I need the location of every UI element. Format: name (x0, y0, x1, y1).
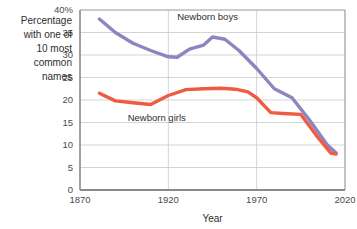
y-axis-title-line: common (34, 57, 72, 68)
series-label: Newborn girls (128, 112, 186, 123)
x-tick-label: 1870 (69, 194, 90, 205)
y-axis-title-line: 10 most (36, 43, 72, 54)
x-axis-title: Year (202, 213, 223, 224)
y-axis-title-line: with one of (23, 29, 73, 40)
y-axis-title: Percentagewith one of10 mostcommonnames (21, 15, 73, 82)
x-tick-label: 1920 (158, 194, 179, 205)
x-axis-title-text: Year (202, 213, 223, 224)
series-line (99, 19, 336, 153)
y-tick-label: 5 (68, 162, 73, 173)
chart-container: 0510152025303540% 1870192019702020 Newbo… (0, 0, 357, 229)
x-axis-tick-labels: 1870192019702020 (69, 194, 355, 205)
y-tick-label: 20 (62, 94, 73, 105)
y-axis-title-line: Percentage (21, 15, 73, 26)
x-tick-label: 1970 (246, 194, 267, 205)
y-tick-label: 10 (62, 139, 73, 150)
series-inline-labels: Newborn boysNewborn girls (128, 11, 238, 122)
series-label: Newborn boys (177, 11, 238, 22)
y-axis-title-line: names (42, 71, 72, 82)
line-chart: 0510152025303540% 1870192019702020 Newbo… (0, 0, 357, 229)
y-tick-label: 40% (54, 4, 74, 15)
y-tick-label: 15 (62, 117, 73, 128)
x-tick-label: 2020 (334, 194, 355, 205)
series-lines (99, 19, 336, 154)
